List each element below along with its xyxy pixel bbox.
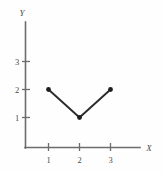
x-tick-label-2: 2 <box>77 155 81 165</box>
y-tick-label-3: 3 <box>15 57 19 67</box>
y-tick-label-1: 1 <box>15 113 19 123</box>
chart-figure: 3 2 1 1 2 3 Y X <box>0 0 164 173</box>
x-tick-label-1: 1 <box>46 155 50 165</box>
x-tick-label-3: 3 <box>108 155 112 165</box>
x-axis-label: X <box>145 143 152 153</box>
data-point-marker <box>46 87 51 92</box>
data-series-line <box>49 90 111 118</box>
line-chart-svg: 3 2 1 1 2 3 Y X <box>0 0 164 173</box>
data-point-marker <box>77 115 82 120</box>
y-tick-label-2: 2 <box>15 85 19 95</box>
data-point-marker <box>108 87 113 92</box>
y-axis-label: Y <box>19 8 25 18</box>
